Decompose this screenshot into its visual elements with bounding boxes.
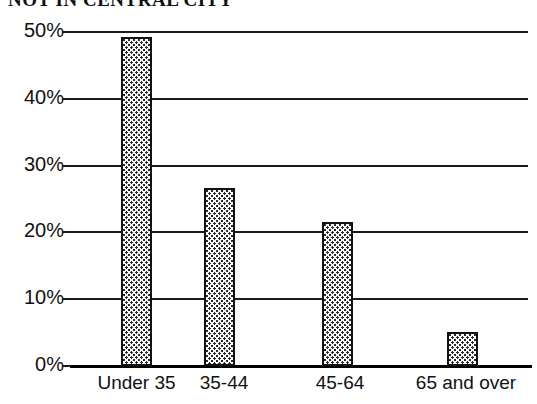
y-axis-tick-mark-0 <box>62 365 71 367</box>
x-axis-tick-label-1: 35-44 <box>200 372 249 394</box>
y-axis-tick-label-40: 40% <box>0 87 64 107</box>
y-axis-tick-mark-30 <box>62 165 71 167</box>
y-axis-tick-mark-40 <box>62 98 71 100</box>
y-axis-tick-label-10: 10% <box>0 287 64 307</box>
y-axis-tick-label-50: 50% <box>0 20 64 40</box>
chart-screenshot: NOT IN CENTRAL CITY 50%40%30%20%10%0% Un… <box>0 0 537 404</box>
plot-area: 50%40%30%20%10%0% Under 3535-4445-6465 a… <box>0 0 537 404</box>
x-axis-tick-label-0: Under 35 <box>97 372 175 394</box>
bar-65-and-over <box>447 332 478 366</box>
bar-45-64 <box>322 222 353 366</box>
gridline-50 <box>70 31 528 33</box>
x-axis-tick-label-2: 45-64 <box>316 372 365 394</box>
bar-35-44 <box>204 188 235 366</box>
bar-under-35 <box>121 37 152 366</box>
y-axis-tick-label-20: 20% <box>0 220 64 240</box>
y-axis-tick-mark-10 <box>62 298 71 300</box>
y-axis-tick-label-0: 0% <box>0 354 64 374</box>
x-axis-tick-label-3: 65 and over <box>416 372 516 394</box>
y-axis-tick-label-30: 30% <box>0 154 64 174</box>
y-axis-tick-mark-50 <box>62 31 71 33</box>
y-axis-tick-mark-20 <box>62 231 71 233</box>
